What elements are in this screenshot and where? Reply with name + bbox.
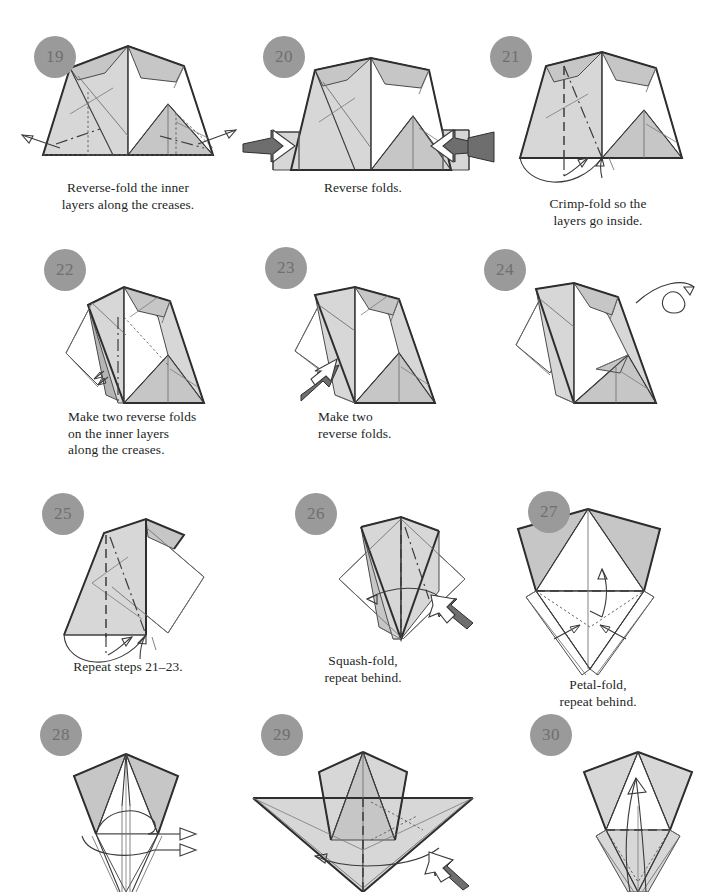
step-number-badge-19: 19	[34, 36, 76, 78]
step-27-caption: Petal-fold, repeat behind.	[478, 677, 718, 710]
step-21-figure-area: 21	[478, 18, 718, 193]
step-number-badge-30: 30	[530, 714, 572, 756]
step-panel-28: 28	[8, 710, 248, 890]
step-panel-21: 21	[478, 18, 718, 193]
step-panel-26: 26	[243, 487, 483, 647]
step-number-badge-25: 25	[42, 493, 84, 535]
push-arrow-diagonal	[425, 852, 469, 890]
step-number-badge-27: 27	[528, 491, 570, 533]
step-26-caption: Squash-fold, repeat behind.	[243, 653, 483, 686]
step-27-diagram	[478, 487, 718, 682]
step-22-caption: Make two reverse folds on the inner laye…	[68, 409, 268, 459]
step-23-caption: Make two reverse folds.	[318, 409, 478, 442]
step-panel-23: 23	[243, 245, 483, 400]
step-25-caption: Repeat steps 21–23.	[8, 659, 248, 676]
step-26-figure-area: 26	[243, 487, 483, 647]
step-20-figure-area: 20	[243, 18, 483, 173]
step-23-figure-area: 23	[243, 245, 483, 400]
step-27-figure-area: 27	[478, 487, 718, 677]
step-panel-24: 24	[478, 245, 718, 420]
step-panel-27: 27	[478, 487, 718, 677]
step-19-figure-area: 19	[8, 18, 248, 173]
step-26-diagram	[243, 487, 483, 652]
step-number-badge-23: 23	[265, 247, 307, 289]
step-panel-25: 25	[8, 487, 248, 667]
step-20-caption: Reverse folds.	[243, 180, 483, 197]
step-28-figure-area: 28	[8, 710, 248, 890]
step-22-figure-area: 22	[8, 245, 248, 400]
step-number-badge-28: 28	[40, 714, 82, 756]
step-21-caption: Crimp-fold so the layers go inside.	[478, 196, 718, 229]
step-number-badge-21: 21	[490, 36, 532, 78]
step-29-figure-area: 29	[243, 710, 483, 890]
step-24-figure-area: 24	[478, 245, 718, 420]
step-number-badge-26: 26	[295, 493, 337, 535]
step-number-badge-22: 22	[44, 249, 86, 291]
crimp-arrow	[520, 158, 614, 182]
turn-over-arrow	[636, 283, 694, 313]
step-panel-30: 30	[478, 710, 718, 890]
step-number-badge-29: 29	[261, 714, 303, 756]
push-arrow-diagonal	[429, 595, 473, 629]
step-19-caption: Reverse-fold the inner layers along the …	[8, 180, 248, 213]
step-25-figure-area: 25	[8, 487, 248, 667]
step-panel-20: 20	[243, 18, 483, 173]
step-panel-19: 19	[8, 18, 248, 173]
step-number-badge-20: 20	[263, 36, 305, 78]
step-30-diagram	[478, 710, 718, 892]
step-number-badge-24: 24	[484, 249, 526, 291]
step-30-figure-area: 30	[478, 710, 718, 890]
step-panel-29: 29	[243, 710, 483, 890]
step-panel-22: 22	[8, 245, 248, 400]
